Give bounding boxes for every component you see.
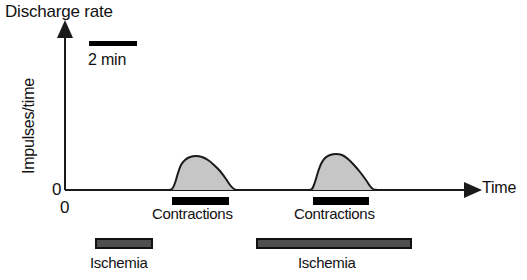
ischemia-bar-4 (257, 239, 411, 248)
contractions-label-1: Contractions (152, 206, 233, 221)
y-axis-zero-tick-label: 0 (52, 181, 61, 198)
discharge-curves (168, 154, 377, 190)
scale-bar-label: 2 min (88, 52, 126, 68)
discharge-rate-figure: Discharge rate Impulses/time 0 0 Time 2 … (0, 0, 527, 280)
contraction-bar-2 (313, 197, 369, 205)
ischemia-label-2: Ischemia (298, 255, 356, 270)
plot-canvas (0, 0, 527, 280)
contractions-label-2: Contractions (294, 206, 375, 221)
ischemia-bar-3 (96, 239, 152, 248)
y-axis-label: Impulses/time (21, 78, 37, 174)
contraction-bar-1 (172, 197, 229, 205)
x-axis-label: Time (482, 180, 516, 196)
x-axis-zero-tick-label: 0 (60, 199, 69, 216)
ischemia-label-1: Ischemia (90, 255, 148, 270)
scale-bar (89, 41, 137, 46)
page-title: Discharge rate (5, 3, 113, 20)
